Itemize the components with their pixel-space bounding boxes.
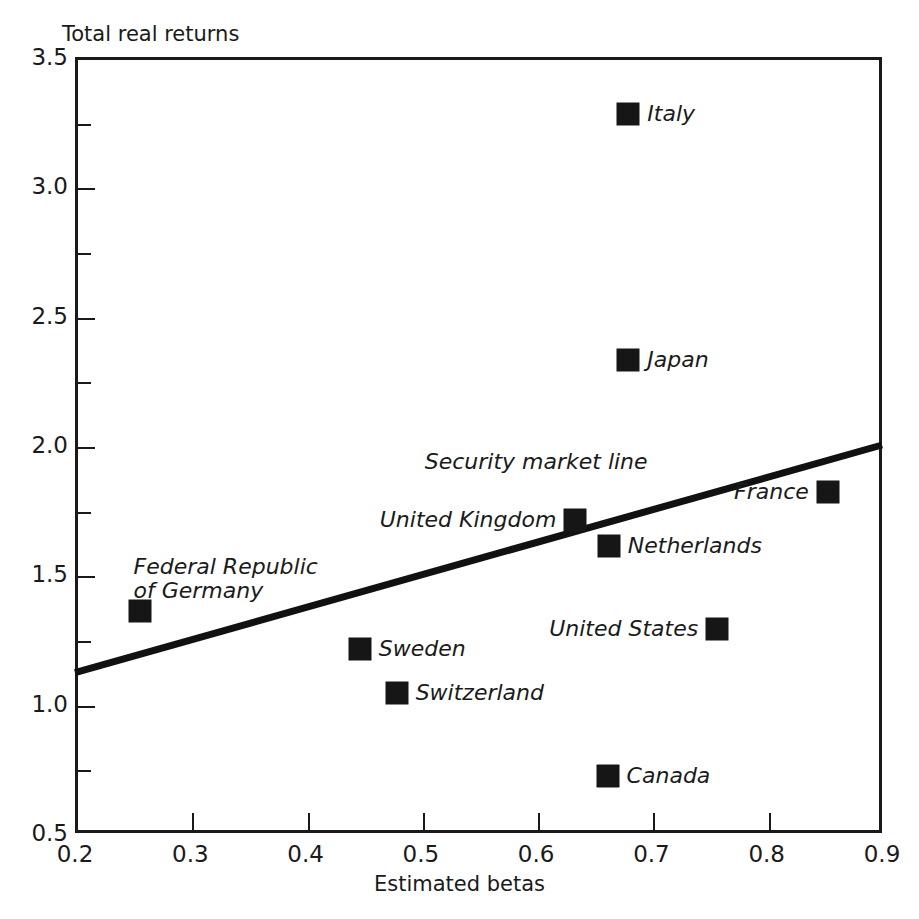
y-tick-mark-minor (78, 641, 91, 643)
y-tick-label: 1.5 (10, 563, 68, 586)
x-axis-title: Estimated betas (0, 872, 919, 896)
x-tick-label: 0.6 (518, 843, 555, 866)
y-tick-mark-major (78, 188, 95, 190)
x-tick-label: 0.3 (172, 843, 209, 866)
data-point-marker (617, 348, 640, 371)
y-tick-mark-major (78, 447, 95, 449)
data-point-label: United Kingdom (380, 508, 557, 533)
x-tick-label: 0.9 (864, 843, 901, 866)
security-market-line-label: Security market line (425, 449, 648, 474)
x-tick-mark-major (769, 813, 771, 830)
data-point-marker (596, 765, 619, 788)
x-tick-label: 0.2 (57, 843, 94, 866)
data-point-marker (348, 638, 371, 661)
x-tick-mark-major (308, 813, 310, 830)
data-point-label: United States (549, 616, 698, 641)
chart-root: Total real returns 0.51.01.52.02.53.03.5… (0, 0, 919, 919)
data-point-label: Federal Republic of Germany (134, 555, 318, 604)
data-point-label: Switzerland (416, 681, 544, 706)
plot-frame (75, 57, 882, 833)
x-tick-label: 0.4 (287, 843, 324, 866)
y-axis-tick-labels: 0.51.01.52.02.53.03.5 (0, 0, 68, 919)
x-tick-mark-major (653, 813, 655, 830)
y-tick-label: 1.0 (10, 692, 68, 715)
data-point-marker (385, 682, 408, 705)
data-point-label: Sweden (379, 637, 466, 662)
x-tick-label: 0.5 (403, 843, 440, 866)
x-tick-mark-major (538, 813, 540, 830)
data-point-marker (617, 102, 640, 125)
data-point-marker (597, 534, 620, 557)
y-tick-label: 2.0 (10, 434, 68, 457)
y-tick-mark-minor (78, 253, 91, 255)
data-point-marker (564, 509, 587, 532)
y-tick-mark-major (78, 318, 95, 320)
data-point-marker (706, 617, 729, 640)
data-point-label: Netherlands (628, 534, 762, 559)
y-tick-mark-major (78, 576, 95, 578)
y-tick-label: 3.5 (10, 46, 68, 69)
y-tick-mark-minor (78, 124, 91, 126)
x-tick-label: 0.7 (633, 843, 670, 866)
data-point-label: Canada (627, 764, 711, 789)
y-tick-mark-major (78, 706, 95, 708)
x-tick-mark-major (192, 813, 194, 830)
y-tick-mark-minor (78, 382, 91, 384)
data-point-label: Japan (647, 347, 708, 372)
y-tick-mark-minor (78, 512, 91, 514)
x-tick-mark-major (423, 813, 425, 830)
data-point-label: Italy (647, 102, 695, 127)
y-tick-mark-minor (78, 770, 91, 772)
y-tick-label: 2.5 (10, 304, 68, 327)
y-axis-title: Total real returns (62, 22, 239, 46)
y-tick-label: 3.0 (10, 175, 68, 198)
data-point-label: France (734, 479, 809, 504)
x-tick-label: 0.8 (748, 843, 785, 866)
data-point-marker (816, 480, 839, 503)
